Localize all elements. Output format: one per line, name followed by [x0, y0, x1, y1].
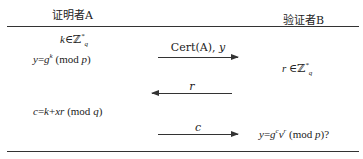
bottom-rule: [7, 151, 359, 152]
verifier-check: y=gcvr (mod p)?: [259, 128, 329, 140]
message-label-cert: Cert(A), y: [158, 41, 238, 54]
prover-step-y: y=gk (mod p): [33, 53, 91, 65]
prover-header: 证明者A: [52, 6, 93, 22]
prover-step-k: k∈ℤ*q: [60, 33, 88, 46]
message-label-r: r: [152, 80, 232, 93]
verifier-header: 验证者B: [283, 11, 324, 27]
verifier-step-r: r ∈ℤ*q: [282, 62, 312, 75]
arrow-right-icon: [158, 57, 238, 58]
message-label-c: c: [158, 121, 238, 134]
prover-step-c: c=k+xr (mod q): [33, 105, 102, 117]
top-rule: [7, 26, 359, 27]
arrow-left-icon: [152, 93, 232, 94]
arrow-right-icon: [158, 134, 238, 135]
